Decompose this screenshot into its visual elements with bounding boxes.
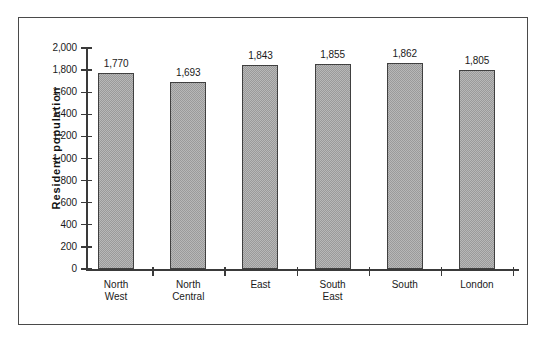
y-axis-tick	[81, 202, 92, 203]
bar-value-label: 1,862	[381, 48, 429, 59]
x-axis-tick	[513, 267, 514, 276]
x-axis-category-label: East	[227, 279, 293, 291]
y-axis-tick	[81, 136, 92, 137]
x-axis-category-label: SouthEast	[300, 279, 366, 302]
y-axis-tick-label: 800	[31, 175, 77, 186]
y-axis-tick	[81, 180, 92, 181]
bar	[387, 63, 423, 269]
y-axis-tick	[81, 158, 92, 159]
y-axis-tick	[81, 114, 92, 115]
bar-value-label: 1,805	[453, 55, 501, 66]
x-axis-category-label-line: East	[300, 291, 366, 303]
chart-frame: Resident population 2,0001,8001,6001,400…	[18, 17, 528, 325]
y-axis-tick-label: 200	[31, 241, 77, 252]
x-axis-category-label: South	[372, 279, 438, 291]
x-axis-category-label-line: West	[83, 291, 149, 303]
y-axis-tick-label: 600	[31, 197, 77, 208]
x-axis-category-label-line: North	[83, 279, 149, 291]
bar	[315, 64, 351, 269]
x-axis-line	[86, 269, 519, 271]
x-axis-tick	[297, 267, 298, 276]
plot-area: Resident population 2,0001,8001,6001,400…	[19, 18, 529, 326]
x-axis-category-label-line: North	[155, 279, 221, 291]
y-axis-tick-label: 1,200	[31, 130, 77, 141]
bar-value-label: 1,770	[92, 58, 140, 69]
x-axis-tick	[152, 267, 153, 276]
y-axis-tick	[81, 92, 92, 93]
x-axis-tick	[441, 267, 442, 276]
y-axis-tick	[81, 47, 92, 48]
bar	[242, 65, 278, 269]
y-axis-tick	[81, 246, 92, 247]
x-axis-tick	[224, 267, 225, 276]
x-axis-category-label-line: South	[372, 279, 438, 291]
x-axis-category-label: NorthWest	[83, 279, 149, 302]
bar-value-label: 1,693	[164, 67, 212, 78]
y-axis-tick-label: 2,000	[31, 42, 77, 53]
x-axis-category-label-line: South	[300, 279, 366, 291]
y-axis-tick-label: 1,000	[31, 153, 77, 164]
bar	[459, 70, 495, 269]
bar-value-label: 1,855	[309, 49, 357, 60]
x-axis-tick	[369, 267, 370, 276]
bar	[170, 82, 206, 269]
y-axis-tick-label: 1,400	[31, 108, 77, 119]
y-axis-tick-label: 1,800	[31, 64, 77, 75]
y-axis-tick	[81, 224, 92, 225]
y-axis-tick	[81, 69, 92, 70]
x-axis-category-label: London	[444, 279, 510, 291]
y-axis-tick-label: 0	[31, 263, 77, 274]
x-axis-category-label-line: East	[227, 279, 293, 291]
bar	[98, 73, 134, 269]
x-axis-category-label: NorthCentral	[155, 279, 221, 302]
x-axis-category-label-line: London	[444, 279, 510, 291]
x-axis-category-label-line: Central	[155, 291, 221, 303]
bar-value-label: 1,843	[236, 50, 284, 61]
y-axis-tick-label: 1,600	[31, 86, 77, 97]
y-axis-tick-label: 400	[31, 219, 77, 230]
